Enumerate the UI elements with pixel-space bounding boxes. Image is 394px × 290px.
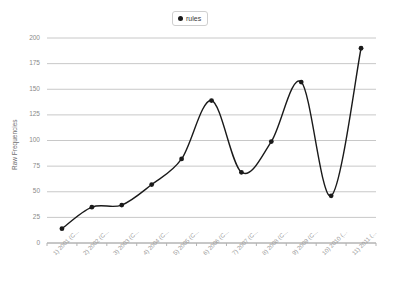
y-axis-tick-label: 0 <box>14 240 40 247</box>
series-markers-rules <box>60 46 364 231</box>
y-axis-tick-label: 150 <box>14 86 40 93</box>
chart-legend[interactable]: rules <box>172 11 208 26</box>
chart-container: rules 0255075100125150175200 1) 2001 (C.… <box>0 0 394 290</box>
y-axis-tick-label: 125 <box>14 111 40 118</box>
y-axis-title: Raw Frequencies <box>12 119 19 170</box>
y-axis-tick-label: 25 <box>14 214 40 221</box>
y-axis-tick-label: 175 <box>14 60 40 67</box>
gridlines <box>47 38 376 243</box>
series-line-rules <box>62 48 361 228</box>
legend-label-rules: rules <box>186 15 201 22</box>
y-axis-tick-label: 50 <box>14 188 40 195</box>
legend-marker-icon <box>178 16 183 21</box>
y-axis-tick-label: 200 <box>14 35 40 42</box>
